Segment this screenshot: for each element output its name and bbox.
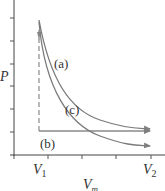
y-axis-label: P [0, 69, 9, 84]
x-axis [10, 155, 165, 159]
y-axis [10, 0, 14, 156]
pv-diagram: (a) (c) (b) P V1 V2 Vm [0, 0, 165, 191]
path-a-label: (a) [54, 56, 68, 71]
path-b [37, 30, 150, 131]
x-tick-v2: V2 [143, 162, 157, 179]
x-tick-v1: V1 [33, 162, 47, 179]
path-b-label: (b) [40, 136, 55, 151]
path-c-label: (c) [65, 102, 79, 117]
x-axis-label: Vm [83, 177, 99, 191]
path-a [39, 20, 150, 129]
